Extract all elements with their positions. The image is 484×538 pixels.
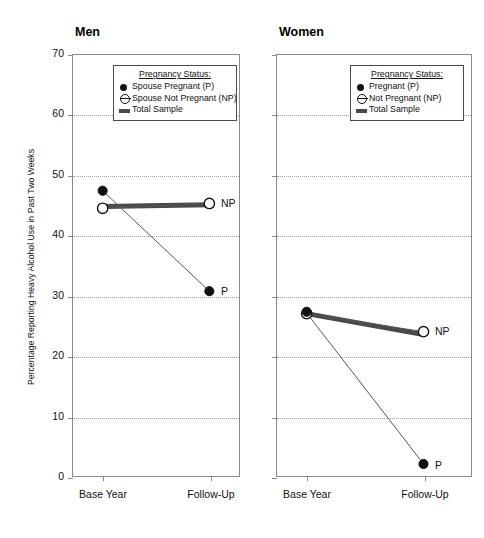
x-tick-label-follow-up: Follow-Up <box>187 488 234 500</box>
annotation-np-women: NP <box>435 325 450 337</box>
legend-item-total-sample: Total Sample <box>119 104 231 116</box>
y-tick-mark-0 <box>68 478 73 479</box>
data-point-np-follow-up <box>418 327 428 337</box>
x-tick-mark-base-year <box>307 476 308 481</box>
x-tick-mark-base-year <box>103 476 104 481</box>
filled-circle-icon <box>119 81 131 92</box>
x-tick-label-base-year: Base Year <box>79 488 127 500</box>
legend-label-total-sample: Total Sample <box>369 104 420 116</box>
legend-label-not-pregnant: Not Pregnant (NP) <box>369 93 441 105</box>
data-point-np-base-year <box>98 203 108 213</box>
panel-men: Men Base Year Follow-Up <box>72 54 240 477</box>
y-tick-label-70: 70 <box>36 48 64 59</box>
x-tick-label-base-year: Base Year <box>283 488 331 500</box>
filled-circle-icon <box>356 81 368 92</box>
thick-bar-icon <box>356 105 368 116</box>
open-circle-icon <box>356 93 368 104</box>
legend-item-total-sample: Total Sample <box>356 104 458 116</box>
y-tick-label-10: 10 <box>36 411 64 422</box>
legend-item-pregnant: Pregnant (P) <box>356 81 458 93</box>
data-point-p-follow-up <box>205 287 214 296</box>
annotation-p-men: P <box>221 285 228 297</box>
data-point-np-follow-up <box>204 198 214 208</box>
series-line-p <box>307 313 424 464</box>
open-circle-icon <box>119 93 131 104</box>
panel-title-women: Women <box>279 25 324 39</box>
y-tick-label-0: 0 <box>36 471 64 482</box>
y-tick-mark-0 <box>272 478 277 479</box>
legend-women: Pregnancy Status: Pregnant (P) Not Pregn… <box>350 65 464 121</box>
y-axis-title: Percentage Reporting Heavy Alcohol Use i… <box>26 52 36 482</box>
y-tick-label-30: 30 <box>36 290 64 301</box>
panel-title-men: Men <box>75 25 100 39</box>
data-point-p-follow-up <box>419 459 428 468</box>
panel-women: Women Base Year Follow-Up <box>276 54 472 477</box>
annotation-np-men: NP <box>221 197 236 209</box>
legend-label-pregnant: Pregnant (P) <box>369 81 419 93</box>
series-line-np <box>307 314 424 332</box>
legend-label-spouse-not-pregnant: Spouse Not Pregnant (NP) <box>132 93 237 105</box>
y-tick-label-60: 60 <box>36 108 64 119</box>
annotation-p-women: P <box>435 459 442 471</box>
chart-figure: Percentage Reporting Heavy Alcohol Use i… <box>0 0 484 538</box>
x-tick-mark-follow-up <box>425 476 426 481</box>
legend-item-not-pregnant: Not Pregnant (NP) <box>356 93 458 105</box>
data-point-p-base-year <box>98 186 107 195</box>
legend-title-men: Pregnancy Status: <box>119 69 231 79</box>
legend-men: Pregnancy Status: Spouse Pregnant (P) Sp… <box>113 65 237 121</box>
legend-label-spouse-pregnant: Spouse Pregnant (P) <box>132 81 214 93</box>
legend-item-spouse-pregnant: Spouse Pregnant (P) <box>119 81 231 93</box>
y-tick-label-40: 40 <box>36 229 64 240</box>
y-tick-label-20: 20 <box>36 350 64 361</box>
legend-item-spouse-not-pregnant: Spouse Not Pregnant (NP) <box>119 93 231 105</box>
y-tick-label-50: 50 <box>36 169 64 180</box>
legend-label-total-sample: Total Sample <box>132 104 183 116</box>
legend-title-women: Pregnancy Status: <box>356 69 458 79</box>
data-point-p-base-year <box>302 307 311 316</box>
x-tick-label-follow-up: Follow-Up <box>401 488 448 500</box>
thick-bar-icon <box>119 105 131 116</box>
x-tick-mark-follow-up <box>211 476 212 481</box>
